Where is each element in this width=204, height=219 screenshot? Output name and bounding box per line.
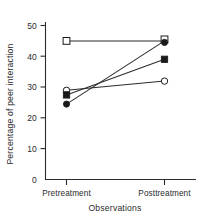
- data-point-series1-pretreatment: [63, 38, 70, 45]
- x-axis-title: Observations: [88, 203, 141, 213]
- x-category-label-pretreatment: Pretreatment: [42, 189, 91, 198]
- data-point-series3-posttreatment: [161, 56, 167, 62]
- y-tick-label-20: 20: [27, 113, 37, 123]
- y-axis-title: Percentage of peer interaction: [5, 43, 15, 164]
- series-line-3: [67, 59, 165, 95]
- y-tick-label-30: 30: [27, 82, 37, 92]
- y-tick-label-50: 50: [27, 21, 37, 31]
- data-point-series4-posttreatment: [161, 78, 167, 84]
- y-tick-label-10: 10: [27, 144, 37, 154]
- data-point-series2-pretreatment: [63, 101, 69, 107]
- data-point-series2-posttreatment: [161, 39, 167, 45]
- chart-figure: Percentage of peer interaction 50 40 30 …: [0, 0, 204, 219]
- line-chart-canvas: Percentage of peer interaction 50 40 30 …: [0, 0, 204, 219]
- y-tick-label-40: 40: [27, 52, 37, 62]
- x-category-label-posttreatment: Posttreatment: [138, 189, 191, 198]
- data-point-series3-pretreatment: [63, 92, 69, 98]
- y-tick-label-0: 0: [32, 175, 37, 185]
- series-line-2: [67, 41, 165, 104]
- series-line-4: [67, 81, 165, 90]
